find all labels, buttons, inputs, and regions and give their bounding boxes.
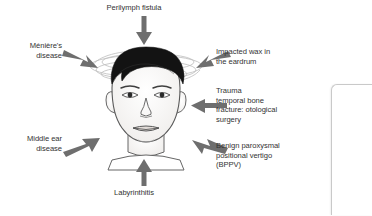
arrow-perilymph-fistula [136,16,152,45]
head-illustration [106,47,186,170]
arrow-menieres-disease [62,50,98,68]
label-labyrinthitis: Labyrinthitis [74,188,194,198]
label-middle-ear-disease: Middle ear disease [0,134,62,153]
arrow-middle-ear-disease [63,138,100,157]
right-eye [154,93,170,98]
label-menieres-disease: Ménière's disease [0,41,62,60]
label-impacted-wax-in-eardrum: Impacted wax in the eardrum [216,47,321,66]
label-benign-paroxysmal-positional-vertigo: Benign paroxysmal positional vertigo (BP… [216,141,326,170]
label-trauma-temporal-bone-fracture: Trauma temporal bone fracture: otologica… [216,86,326,124]
label-perilymph-fistula: Perilymph fistula [74,3,194,13]
side-panel-edge [331,84,372,215]
left-eye [122,93,138,98]
